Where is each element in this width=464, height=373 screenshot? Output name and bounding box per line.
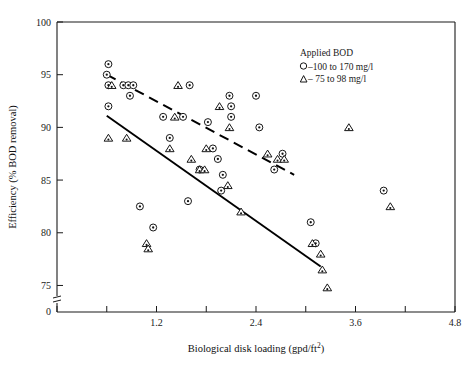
data-point-center-dot [152,226,154,228]
data-point-center-dot [230,105,232,107]
legend-circle-icon [300,63,306,69]
data-point-center-dot [320,254,322,256]
break-slash-upper [53,296,61,298]
break-slash-lower [53,300,61,302]
data-point-center-dot [277,160,279,162]
x-tick-label: 1.2 [150,317,163,328]
data-point-center-dot [321,270,323,272]
solid-fit-line [107,116,321,267]
data-point-center-dot [190,160,192,162]
data-point-center-dot [187,200,189,202]
y-tick-label: 100 [36,17,51,28]
y-tick-label: 95 [41,69,51,80]
data-point-center-dot [255,95,257,97]
series-triangle-dot-points [104,82,395,291]
data-point-center-dot [107,138,109,140]
figure-container: 75808590951000 1.22.43.64.8 Efficiency (… [0,0,464,373]
x-axis-title: Biological disk loading (gpd/ft2) [188,341,325,355]
data-point-center-dot [212,147,214,149]
data-point-center-dot [240,212,242,214]
y-tick-group: 75808590951000 [36,17,63,318]
data-point-center-dot [389,207,391,209]
data-point-center-dot [207,121,209,123]
legend-title: Applied BOD [300,48,353,58]
data-point-center-dot [182,116,184,118]
data-point-center-dot [162,116,164,118]
y-tick-label: 90 [41,122,51,133]
data-point-center-dot [189,84,191,86]
x-tick-label: 2.4 [250,317,263,328]
data-point-center-dot [281,153,283,155]
x-axis-title-tail: ) [321,343,325,355]
data-point-center-dot [228,128,230,130]
data-point-center-dot [348,128,350,130]
axis-frame [57,22,455,312]
data-point-center-dot [310,221,312,223]
y-tick-label: 75 [41,280,51,291]
data-point-center-dot [177,86,179,88]
fit-line-group [107,75,321,267]
data-point-center-dot [169,149,171,151]
data-point-center-dot [267,154,269,156]
y-tick-label: 85 [41,175,51,186]
legend-entry-1-label: – 75 to 98 mg/l [307,74,366,84]
data-point-center-dot [218,107,220,109]
x-tick-label: 4.8 [449,317,462,328]
data-point-center-dot [107,105,109,107]
y-axis-title: Efficiency (% BOD removal) [7,105,19,229]
data-point-center-dot [383,189,385,191]
data-point-center-dot [126,138,128,140]
data-point-center-dot [122,84,124,86]
data-point-center-dot [132,84,134,86]
data-point-center-dot [273,168,275,170]
data-point-center-dot [111,86,113,88]
x-tick-label: 3.6 [349,317,362,328]
data-point-center-dot [311,244,313,246]
data-point-center-dot [127,84,129,86]
data-point-center-dot [220,189,222,191]
legend-entry-0-label: –100 to 170 mg/l [307,62,374,72]
data-point-center-dot [228,95,230,97]
data-point-center-dot [107,63,109,65]
data-point-center-dot [129,95,131,97]
data-point-center-dot [147,249,149,251]
data-point-center-dot [227,186,229,188]
x-tick-group: 1.22.43.64.8 [57,306,461,328]
data-point-center-dot [283,160,285,162]
data-point-center-dot [230,116,232,118]
data-point-center-dot [139,205,141,207]
data-point-center-dot [205,149,207,151]
data-point-center-dot [222,174,224,176]
data-point-center-dot [217,158,219,160]
y-axis-zero-label: 0 [46,306,51,317]
data-point-center-dot [326,288,328,290]
y-tick-label: 80 [41,227,51,238]
scatter-chart: 75808590951000 1.22.43.64.8 Efficiency (… [0,0,464,373]
data-point-center-dot [204,170,206,172]
series-circle-dot-points [103,61,387,247]
legend: Applied BOD –100 to 170 mg/l – 75 to 98 … [300,48,374,84]
y-axis-break-marks [53,296,61,302]
legend-triangle-icon [300,76,307,82]
data-point-center-dot [169,137,171,139]
data-point-center-dot [106,74,108,76]
dashed-fit-line [107,75,294,175]
data-point-center-dot [174,117,176,119]
data-point-center-dot [258,126,260,128]
x-axis-title-main: Biological disk loading (gpd/ft [188,343,317,355]
